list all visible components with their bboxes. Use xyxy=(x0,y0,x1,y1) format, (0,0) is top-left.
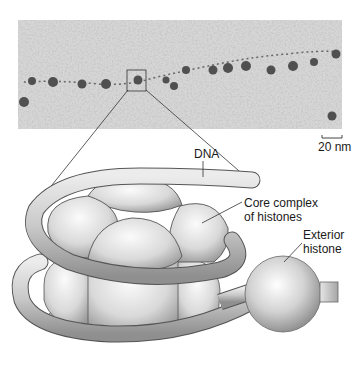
exterior-histone-sphere xyxy=(245,256,321,332)
dna-label: DNA xyxy=(194,147,219,161)
core-complex-label: Core complex of histones xyxy=(244,196,318,224)
nucleosome-illustration xyxy=(0,0,360,366)
nucleosome-figure: 20 nm xyxy=(0,0,360,366)
exterior-histone-label: Exterior histone xyxy=(303,228,344,256)
core-complex-label-line1: Core complex xyxy=(244,196,318,210)
core-complex-label-line2: of histones xyxy=(244,210,318,224)
dna-exit-stub xyxy=(320,282,338,302)
exterior-histone-label-line1: Exterior xyxy=(303,228,344,242)
exterior-histone-label-line2: histone xyxy=(303,242,344,256)
